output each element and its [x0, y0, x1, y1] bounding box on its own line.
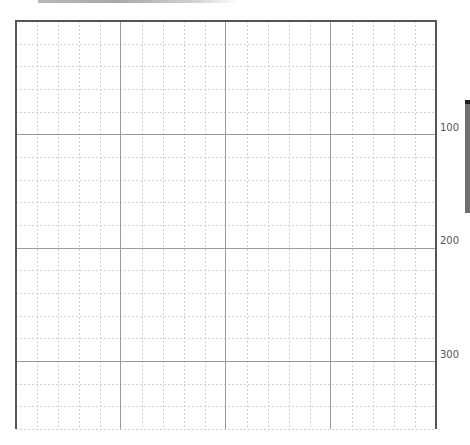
vertical-scrollbar-thumb[interactable] — [465, 100, 470, 213]
axis-label-200: 200 — [440, 235, 459, 247]
grid-canvas: 100 200 300 — [0, 0, 470, 445]
grid-lines — [0, 0, 470, 445]
axis-label-100: 100 — [440, 122, 459, 134]
axis-label-300: 300 — [440, 349, 459, 361]
